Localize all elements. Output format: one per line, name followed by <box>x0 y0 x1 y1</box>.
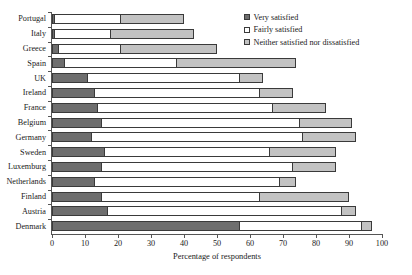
bar-segment <box>95 177 280 187</box>
stacked-bar <box>52 29 194 39</box>
y-axis-label: France <box>0 103 46 112</box>
x-axis-tick <box>316 234 317 238</box>
bar-segment <box>52 73 88 83</box>
bar-segment <box>59 44 122 54</box>
y-axis-label: Finland <box>0 192 46 201</box>
legend-label: Fairly satisfied <box>254 25 303 34</box>
bar-row <box>52 56 382 71</box>
bar-segment <box>177 58 296 68</box>
bar-segment <box>342 206 355 216</box>
stacked-bar <box>52 103 326 113</box>
bar-row <box>52 101 382 116</box>
bar-segment <box>52 206 108 216</box>
legend-item: Fairly satisfied <box>244 24 410 37</box>
y-axis-tick <box>48 42 51 43</box>
bar-row <box>52 190 382 205</box>
bar-segment <box>303 132 356 142</box>
bar-segment <box>102 192 260 202</box>
x-axis-tick-label: 80 <box>304 239 328 249</box>
bar-segment <box>52 132 92 142</box>
y-axis-label: Spain <box>0 59 46 68</box>
bar-segment <box>300 118 353 128</box>
y-axis-label: Germany <box>0 133 46 142</box>
y-axis-tick <box>48 130 51 131</box>
bar-segment <box>52 221 240 231</box>
x-axis-tick-label: 30 <box>139 239 163 249</box>
stacked-bar <box>52 221 372 231</box>
bar-segment <box>273 103 326 113</box>
bar-segment <box>260 192 349 202</box>
bar-segment <box>92 132 303 142</box>
bar-row <box>52 204 382 219</box>
y-axis-label: Denmark <box>0 222 46 231</box>
stacked-bar <box>52 73 263 83</box>
y-axis-label: UK <box>0 74 46 83</box>
bar-segment <box>240 73 263 83</box>
bar-segment <box>52 88 95 98</box>
bar-row <box>52 86 382 101</box>
legend-label: Very satisfied <box>254 13 299 22</box>
bar-segment <box>121 14 184 24</box>
bar-segment <box>280 177 297 187</box>
stacked-bar <box>52 132 356 142</box>
y-axis-label: Austria <box>0 207 46 216</box>
x-axis-tick <box>349 234 350 238</box>
y-axis-tick <box>48 56 51 57</box>
y-axis-tick <box>48 71 51 72</box>
y-axis-tick <box>48 86 51 87</box>
legend-item: Very satisfied <box>244 11 410 24</box>
x-axis-tick-label: 100 <box>370 239 394 249</box>
legend-label: Neither satisfied nor dissatisfied <box>254 38 360 47</box>
legend-swatch-icon <box>244 27 250 33</box>
x-axis-tick-label: 60 <box>238 239 262 249</box>
bar-segment <box>52 44 59 54</box>
stacked-bar <box>52 162 336 172</box>
y-axis-tick <box>48 190 51 191</box>
x-axis-tick-label: 50 <box>205 239 229 249</box>
stacked-bar <box>52 88 293 98</box>
stacked-bar <box>52 118 352 128</box>
y-axis-tick <box>48 175 51 176</box>
y-axis-label: Luxemburg <box>0 162 46 171</box>
x-axis-tick-label: 70 <box>271 239 295 249</box>
x-axis-tick-label: 40 <box>172 239 196 249</box>
y-axis-label: Portugal <box>0 14 46 23</box>
y-axis-tick <box>48 116 51 117</box>
bar-segment <box>52 58 65 68</box>
x-axis-tick <box>184 234 185 238</box>
x-axis-title: Percentage of respondents <box>52 252 382 261</box>
bar-segment <box>111 29 194 39</box>
stacked-bar <box>52 177 296 187</box>
x-axis-ticks: 0102030405060708090100 <box>0 0 330 1</box>
x-axis-tick-label: 90 <box>337 239 361 249</box>
bar-row <box>52 160 382 175</box>
y-axis-tick <box>48 27 51 28</box>
y-axis-label: Italy <box>0 29 46 38</box>
legend-item: Neither satisfied nor dissatisfied <box>244 36 410 49</box>
bar-segment <box>55 14 121 24</box>
y-axis-label: Sweden <box>0 148 46 157</box>
bar-row <box>52 116 382 131</box>
bar-segment <box>121 44 217 54</box>
bar-segment <box>362 221 372 231</box>
bar-segment <box>293 162 336 172</box>
chart-legend: Very satisfiedFairly satisfiedNeither sa… <box>244 11 410 49</box>
y-axis-label: Ireland <box>0 88 46 97</box>
bar-segment <box>240 221 362 231</box>
y-axis-tick <box>48 204 51 205</box>
bar-row <box>52 175 382 190</box>
x-axis-tick-label: 0 <box>40 239 64 249</box>
legend-swatch-icon <box>244 14 250 20</box>
y-axis-label: Greece <box>0 44 46 53</box>
x-axis-tick <box>217 234 218 238</box>
x-axis-tick <box>118 234 119 238</box>
stacked-bar-chart: PortugalItalyGreeceSpainUKIrelandFranceB… <box>0 0 412 275</box>
y-axis-tick <box>48 160 51 161</box>
stacked-bar <box>52 44 217 54</box>
y-axis-tick <box>48 12 51 13</box>
y-axis-tick <box>48 145 51 146</box>
y-axis-label: Belgium <box>0 118 46 127</box>
x-axis-tick <box>250 234 251 238</box>
bar-row <box>52 71 382 86</box>
bar-segment <box>52 103 98 113</box>
